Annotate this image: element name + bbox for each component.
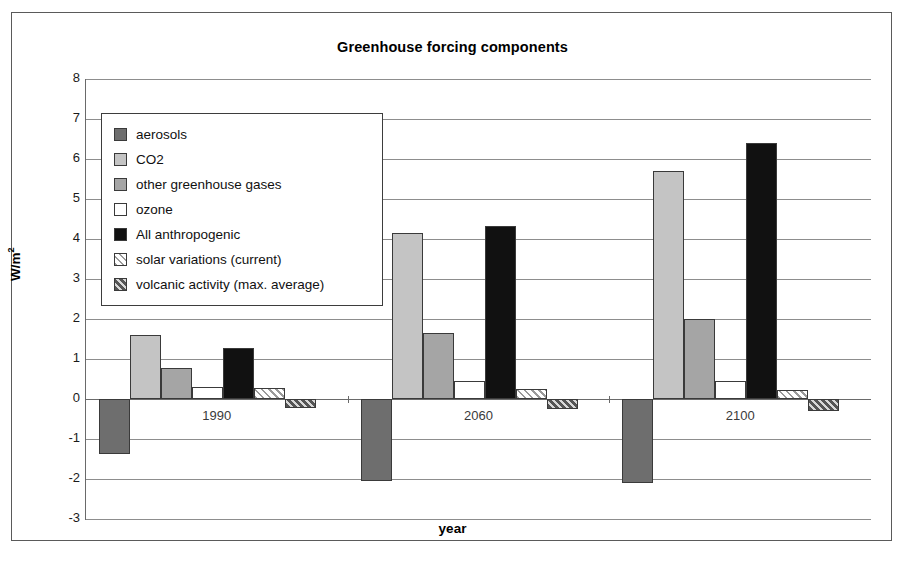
chart-title: Greenhouse forcing components [12,39,893,55]
bar [622,399,653,483]
y-axis-tick-label: -1 [32,430,80,445]
legend-swatch-icon [114,203,127,216]
gridline--3 [86,519,871,520]
legend-item: other greenhouse gases [114,172,372,197]
y-axis-title-text: W/m [8,253,23,282]
legend-swatch-icon [114,228,127,241]
chart-legend: aerosolsCO2other greenhouse gasesozoneAl… [101,113,383,306]
chart-frame: Greenhouse forcing components W/m2 87654… [11,12,892,541]
bar [392,233,423,399]
legend-swatch-icon [114,278,127,291]
bar [161,368,192,399]
bar [485,226,516,399]
gridline-0 [86,399,871,400]
legend-label: other greenhouse gases [136,177,282,192]
gridline-8 [86,79,871,80]
y-axis-title: W/m2 [6,247,23,281]
x-axis-title: year [12,521,893,536]
y-axis-tick-label: -2 [32,470,80,485]
bar [223,348,254,399]
bar [516,389,547,399]
gridline--1 [86,439,871,440]
y-axis-tick-label: 7 [32,110,80,125]
legend-label: solar variations (current) [136,252,282,267]
y-axis-tick-label: 1 [32,350,80,365]
legend-item: All anthropogenic [114,222,372,247]
legend-swatch-icon [114,253,127,266]
bar [684,319,715,399]
bar [746,143,777,399]
legend-swatch-icon [114,153,127,166]
legend-swatch-icon [114,178,127,191]
y-axis-title-exponent: 2 [6,247,16,252]
bar [808,399,839,411]
bar [99,399,130,454]
y-axis-labels: 876543210-1-2-3 [22,79,80,519]
bar [777,390,808,399]
bar [653,171,684,399]
legend-label: CO2 [136,152,164,167]
legend-item: solar variations (current) [114,247,372,272]
legend-label: volcanic activity (max. average) [136,277,324,292]
bar [254,388,285,399]
y-axis-tick-label: 5 [32,190,80,205]
y-axis-tick-label: 6 [32,150,80,165]
legend-label: ozone [136,202,173,217]
bar [361,399,392,481]
legend-item: aerosols [114,122,372,147]
bar [454,381,485,399]
legend-item: ozone [114,197,372,222]
legend-label: All anthropogenic [136,227,240,242]
bar [192,387,223,399]
bar [130,335,161,399]
y-axis-tick-label: 8 [32,70,80,85]
x-axis-category-label: 1990 [202,408,231,423]
x-axis-category-label: 2060 [464,408,493,423]
bar [423,333,454,399]
x-axis-group-tick [348,396,349,403]
legend-item: volcanic activity (max. average) [114,272,372,297]
y-axis-tick-label: 0 [32,390,80,405]
y-axis-tick-label: 2 [32,310,80,325]
gridline--2 [86,479,871,480]
legend-item: CO2 [114,147,372,172]
bar [547,399,578,409]
bar [715,381,746,399]
legend-swatch-icon [114,128,127,141]
legend-label: aerosols [136,127,187,142]
y-axis-tick-label: 4 [32,230,80,245]
y-axis-tick-label: 3 [32,270,80,285]
x-axis-category-label: 2100 [726,408,755,423]
x-axis-group-tick [609,396,610,403]
bar [285,399,316,408]
